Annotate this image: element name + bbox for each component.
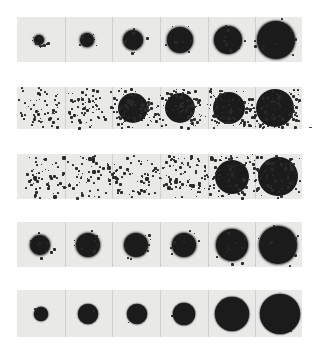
speck xyxy=(213,115,216,118)
speck xyxy=(95,98,97,100)
speck xyxy=(192,106,194,108)
speck xyxy=(66,187,67,188)
speck xyxy=(72,164,74,166)
speck xyxy=(101,111,103,113)
speck xyxy=(213,184,215,186)
speck xyxy=(174,41,177,44)
speck xyxy=(90,119,92,121)
speck xyxy=(141,37,143,39)
speck xyxy=(150,102,153,105)
speck xyxy=(33,104,35,106)
speck xyxy=(57,192,59,194)
speck xyxy=(53,193,54,194)
speck xyxy=(81,91,84,94)
speck xyxy=(103,116,105,118)
speck xyxy=(59,182,62,185)
speck xyxy=(121,88,122,89)
speck xyxy=(294,237,297,240)
speck xyxy=(42,121,43,122)
speck xyxy=(41,164,42,165)
speck xyxy=(25,187,27,189)
speck xyxy=(266,105,268,107)
speck xyxy=(208,188,210,190)
speck xyxy=(275,43,277,45)
speck xyxy=(110,106,113,109)
speck xyxy=(40,118,41,119)
speck xyxy=(299,158,300,159)
speck xyxy=(62,172,65,175)
speck xyxy=(275,109,276,110)
speck xyxy=(126,157,129,160)
speck xyxy=(194,233,195,234)
speck xyxy=(55,162,57,164)
speck xyxy=(133,155,135,157)
speck xyxy=(97,189,99,191)
speck xyxy=(38,111,39,112)
speck xyxy=(278,103,280,105)
speck xyxy=(140,189,141,190)
speck xyxy=(116,111,118,113)
speck xyxy=(132,127,133,128)
speck xyxy=(37,244,39,246)
speck xyxy=(187,112,188,113)
speck xyxy=(71,121,73,123)
speck xyxy=(28,180,31,183)
speck xyxy=(135,91,136,92)
speck xyxy=(195,172,197,174)
speck xyxy=(72,187,75,190)
speck xyxy=(93,182,95,184)
speck xyxy=(179,166,182,169)
speck xyxy=(290,330,292,332)
speck xyxy=(249,179,250,180)
speck xyxy=(92,100,94,102)
speck xyxy=(161,125,163,127)
speck xyxy=(74,240,75,241)
speck xyxy=(227,121,230,124)
speck xyxy=(234,118,236,120)
speck xyxy=(298,99,301,102)
speck xyxy=(41,178,43,180)
speck xyxy=(42,126,44,128)
speck xyxy=(71,108,73,110)
speck xyxy=(181,183,184,186)
speck xyxy=(141,119,143,121)
speck xyxy=(102,167,105,170)
speck xyxy=(255,179,257,181)
speck xyxy=(287,178,289,180)
speck xyxy=(288,114,290,116)
speck xyxy=(77,98,80,101)
speck xyxy=(249,161,251,163)
speck xyxy=(116,99,118,101)
speck xyxy=(183,89,185,91)
speck xyxy=(209,193,212,196)
speck xyxy=(92,89,95,92)
speck xyxy=(295,188,297,190)
speck xyxy=(91,230,93,232)
speck xyxy=(188,51,190,53)
speck xyxy=(78,174,79,175)
speck xyxy=(52,121,55,124)
speck xyxy=(127,257,129,259)
speck xyxy=(56,177,58,179)
speck xyxy=(92,170,96,174)
speck xyxy=(30,100,31,101)
speck xyxy=(278,95,281,98)
speck xyxy=(141,100,142,101)
speck xyxy=(143,182,145,184)
panel-divider xyxy=(65,154,66,199)
speck xyxy=(183,164,184,165)
speck xyxy=(18,99,20,101)
speck xyxy=(129,194,130,195)
speck xyxy=(191,184,195,188)
speck xyxy=(211,119,213,121)
speck xyxy=(161,178,162,179)
speck xyxy=(121,123,123,125)
speck xyxy=(292,183,294,185)
speck xyxy=(211,93,212,94)
speck xyxy=(37,113,40,116)
speck xyxy=(97,177,100,180)
speck xyxy=(35,42,38,45)
speck xyxy=(143,254,144,255)
speck xyxy=(74,100,76,102)
speck xyxy=(162,119,164,121)
